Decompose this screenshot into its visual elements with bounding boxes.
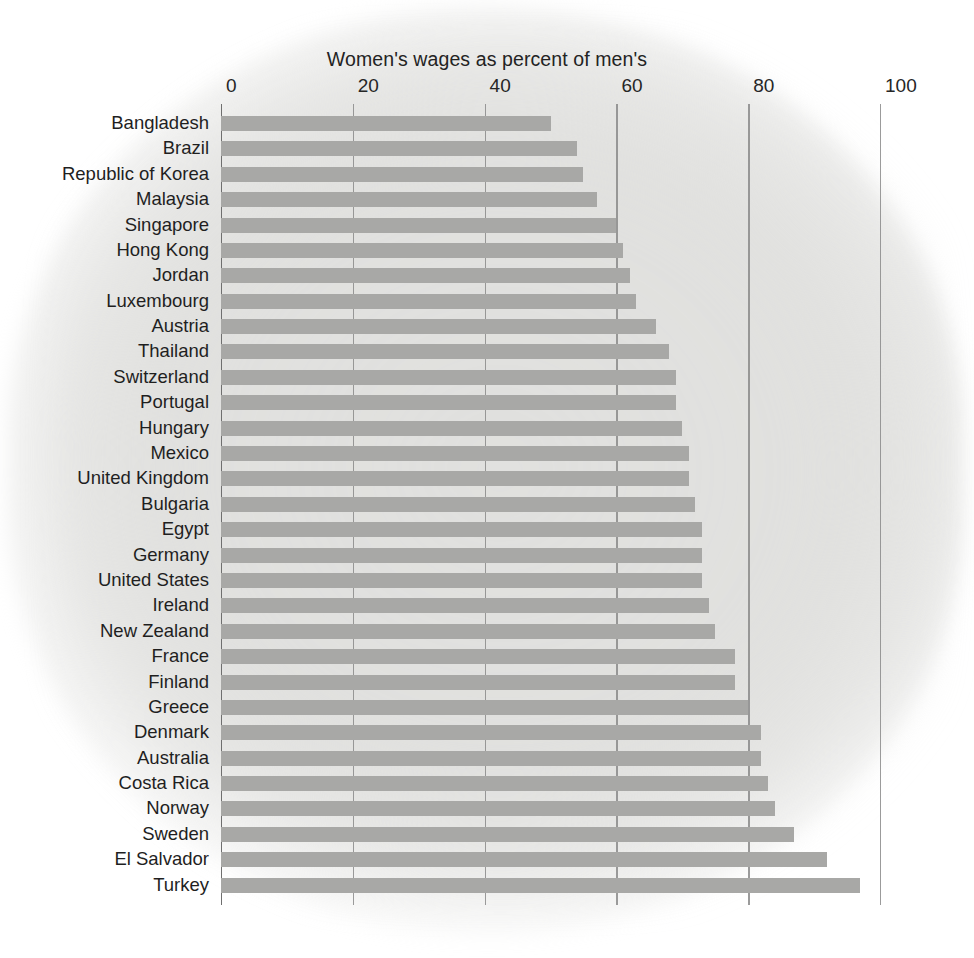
category-label-jordan: Jordan [152, 266, 209, 285]
bar-costa-rica[interactable] [221, 776, 768, 791]
category-label-finland: Finland [148, 673, 209, 692]
category-label-bangladesh: Bangladesh [111, 114, 209, 133]
category-label-sweden: Sweden [142, 825, 209, 844]
bar-turkey[interactable] [221, 878, 860, 893]
category-label-united-kingdom: United Kingdom [77, 469, 209, 488]
x-tick-label-40: 40 [485, 75, 511, 97]
bar-united-kingdom[interactable] [221, 471, 689, 486]
bar-egypt[interactable] [221, 522, 702, 537]
category-label-bulgaria: Bulgaria [141, 495, 209, 514]
bar-republic-of-korea[interactable] [221, 167, 583, 182]
bar-bangladesh[interactable] [221, 116, 551, 131]
chart-page: Women's wages as percent of men's Bangla… [0, 0, 974, 958]
bar-united-states[interactable] [221, 573, 702, 588]
x-tick-label-20: 20 [353, 75, 379, 97]
bar-jordan[interactable] [221, 268, 630, 283]
x-tick-label-80: 80 [748, 75, 774, 97]
bar-new-zealand[interactable] [221, 624, 715, 639]
category-label-brazil: Brazil [163, 139, 209, 158]
category-label-united-states: United States [98, 571, 209, 590]
category-label-austria: Austria [151, 317, 209, 336]
x-tick-label-60: 60 [616, 75, 642, 97]
category-label-singapore: Singapore [125, 216, 209, 235]
category-label-luxembourg: Luxembourg [106, 292, 209, 311]
category-label-denmark: Denmark [134, 723, 209, 742]
category-label-norway: Norway [146, 799, 209, 818]
category-label-greece: Greece [148, 698, 209, 717]
category-label-costa-rica: Costa Rica [119, 774, 209, 793]
bar-portugal[interactable] [221, 395, 676, 410]
plot-area: 020406080100 [221, 104, 880, 905]
category-label-germany: Germany [133, 546, 209, 565]
category-label-egypt: Egypt [162, 520, 209, 539]
bar-finland[interactable] [221, 675, 735, 690]
bar-denmark[interactable] [221, 725, 761, 740]
bar-ireland[interactable] [221, 598, 709, 613]
gridline-100 [880, 104, 881, 905]
category-label-thailand: Thailand [138, 342, 209, 361]
category-label-switzerland: Switzerland [113, 368, 209, 387]
bar-greece[interactable] [221, 700, 748, 715]
category-label-portugal: Portugal [140, 393, 209, 412]
category-label-malaysia: Malaysia [136, 190, 209, 209]
bar-switzerland[interactable] [221, 370, 676, 385]
bar-singapore[interactable] [221, 218, 616, 233]
bar-luxembourg[interactable] [221, 294, 636, 309]
category-label-hungary: Hungary [139, 419, 209, 438]
bar-sweden[interactable] [221, 827, 794, 842]
bar-hong-kong[interactable] [221, 243, 623, 258]
bar-thailand[interactable] [221, 344, 669, 359]
category-label-new-zealand: New Zealand [100, 622, 209, 641]
category-label-hong-kong: Hong Kong [116, 241, 209, 260]
bar-norway[interactable] [221, 801, 775, 816]
category-label-republic-of-korea: Republic of Korea [62, 165, 209, 184]
bar-france[interactable] [221, 649, 735, 664]
category-axis-labels: BangladeshBrazilRepublic of KoreaMalaysi… [0, 104, 221, 905]
x-tick-label-0: 0 [221, 75, 237, 97]
category-label-turkey: Turkey [153, 876, 209, 895]
bar-mexico[interactable] [221, 446, 689, 461]
category-label-australia: Australia [137, 749, 209, 768]
bar-austria[interactable] [221, 319, 656, 334]
bar-australia[interactable] [221, 751, 761, 766]
bar-chart: Women's wages as percent of men's Bangla… [0, 0, 974, 958]
bar-hungary[interactable] [221, 421, 682, 436]
bar-bulgaria[interactable] [221, 497, 695, 512]
bar-el-salvador[interactable] [221, 852, 827, 867]
bar-malaysia[interactable] [221, 192, 597, 207]
category-label-el-salvador: El Salvador [114, 850, 209, 869]
chart-title: Women's wages as percent of men's [0, 48, 974, 71]
category-label-ireland: Ireland [152, 596, 209, 615]
bar-brazil[interactable] [221, 141, 577, 156]
category-label-france: France [151, 647, 209, 666]
x-tick-label-100: 100 [880, 75, 917, 97]
bar-germany[interactable] [221, 548, 702, 563]
category-label-mexico: Mexico [150, 444, 209, 463]
